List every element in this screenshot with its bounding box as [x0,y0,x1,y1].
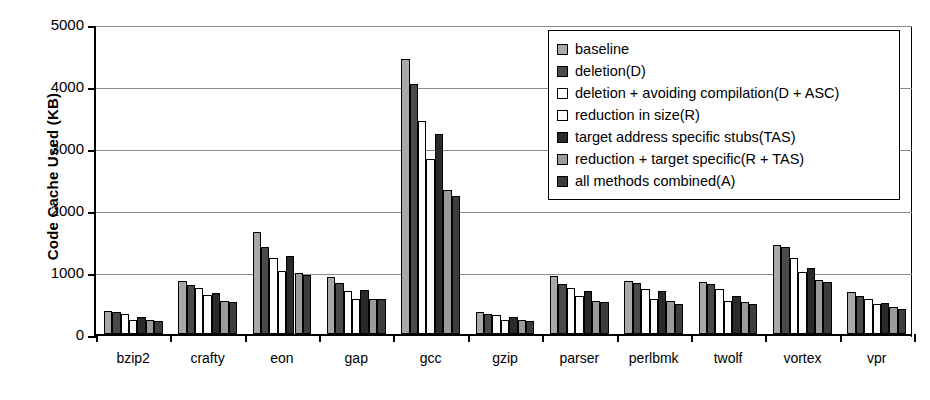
y-axis-label: 5000 [22,16,84,33]
bar [856,296,864,334]
legend-item[interactable]: reduction in size(R) [557,104,891,126]
bar [650,299,658,334]
bar [335,283,343,334]
bar [707,284,715,334]
legend-swatch-icon [557,132,568,143]
bar [401,59,409,334]
bar [229,302,237,334]
y-axis-label: 1000 [22,264,84,281]
bar [509,317,517,334]
bar [823,282,831,334]
bar-group [96,26,170,334]
bar [558,284,566,334]
legend-item[interactable]: reduction + target specific(R + TAS) [557,148,891,170]
bar [715,289,723,334]
x-axis-tick [245,334,247,342]
bar [426,159,434,334]
legend-item[interactable]: deletion(D) [557,60,891,82]
y-axis-label: 3000 [22,140,84,157]
bar [121,314,129,334]
bar [360,290,368,334]
x-axis-label: gzip [468,350,542,366]
legend-item-label: baseline [575,42,629,57]
x-axis-label: parser [542,350,616,366]
bar [203,295,211,334]
bar [881,303,889,334]
y-axis-label: 0 [22,326,84,343]
bar [773,245,781,334]
bar [807,268,815,334]
bar [732,296,740,334]
x-axis-label: eon [245,350,319,366]
bar [724,301,732,334]
legend-swatch-icon [557,88,568,99]
x-axis-tick [319,334,321,342]
bar [641,289,649,334]
bar [741,302,749,334]
bar [575,296,583,334]
bar [418,121,426,334]
x-axis-label: vpr [840,350,914,366]
bar [864,299,872,334]
bar [658,291,666,334]
legend-item-label: reduction in size(R) [575,108,700,123]
x-axis-label: gcc [393,350,467,366]
y-axis-tick [88,212,96,214]
bar [675,304,683,334]
bar [286,256,294,334]
x-axis-tick [393,334,395,342]
x-axis-tick [914,334,916,342]
legend-item[interactable]: baseline [557,38,891,60]
bar [600,302,608,334]
bar [873,304,881,334]
y-axis-tick [88,274,96,276]
bar [889,307,897,334]
legend-item-label: deletion + avoiding compilation(D + ASC) [575,86,839,101]
y-axis-label: 2000 [22,202,84,219]
y-axis-tick [88,150,96,152]
legend-item[interactable]: target address specific stubs(TAS) [557,126,891,148]
bar [195,288,203,334]
x-axis-tick [840,334,842,342]
x-axis-label: bzip2 [96,350,170,366]
bar [790,258,798,334]
y-axis-tick [88,336,96,338]
bar [344,291,352,334]
bar [567,288,575,335]
y-axis-label: 4000 [22,78,84,95]
bar [592,301,600,334]
bar [178,281,186,334]
bar [104,311,112,334]
bar [295,273,303,334]
bar [452,196,460,334]
bar [212,293,220,334]
x-axis-label: gap [319,350,393,366]
bar-group [468,26,542,334]
bar [781,247,789,334]
bar [898,309,906,334]
bar [501,320,509,334]
bar-group [245,26,319,334]
bar [410,84,418,334]
legend-item-label: reduction + target specific(R + TAS) [575,152,804,167]
bar [526,321,534,334]
legend-swatch-icon [557,176,568,187]
legend-item[interactable]: deletion + avoiding compilation(D + ASC) [557,82,891,104]
bar-group [170,26,244,334]
bar [253,232,261,334]
bar [187,285,195,334]
bar [476,312,484,334]
x-axis-tick [96,334,98,342]
legend-item-label: all methods combined(A) [575,174,735,189]
legend-swatch-icon [557,110,568,121]
legend-item-label: deletion(D) [575,64,646,79]
legend-swatch-icon [557,154,568,165]
bar [633,283,641,334]
x-axis-tick [542,334,544,342]
bar [146,320,154,334]
bar [847,292,855,334]
legend-item[interactable]: all methods combined(A) [557,170,891,192]
bar [269,258,277,334]
y-axis-tick [88,26,96,28]
bar [624,281,632,334]
